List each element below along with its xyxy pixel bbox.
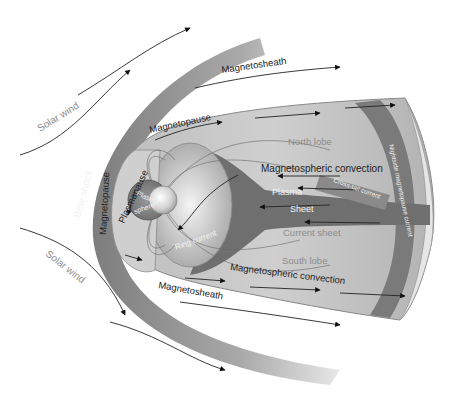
label-bow-shock: Bow shock — [71, 168, 94, 219]
label-solar-wind-top: Solar wind — [35, 100, 80, 134]
label-solar-wind-bottom: Solar wind — [44, 248, 88, 285]
magnetosphere-diagram: Solar wind Solar wind Bow shock Magnetop… — [0, 0, 453, 393]
label-convection-top: Magnetospheric convection — [261, 163, 383, 174]
label-plasma: Plasma — [272, 187, 302, 197]
label-north-lobe: North lobe — [288, 136, 332, 147]
label-sheet: Sheet — [290, 204, 314, 214]
diagram-canvas: Solar wind Solar wind Bow shock Magnetop… — [0, 0, 453, 393]
label-current-sheet: Current sheet — [283, 227, 341, 238]
label-south-lobe: South lobe — [282, 255, 327, 266]
